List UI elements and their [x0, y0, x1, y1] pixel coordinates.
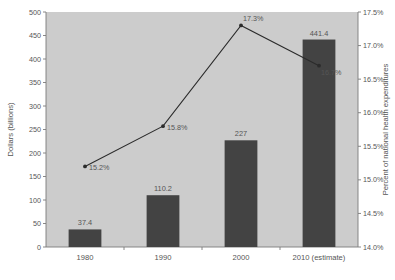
x-axis-category-label: 2000 — [233, 253, 250, 262]
right-tick-label: 17.0% — [363, 41, 384, 50]
left-tick-label: 300 — [29, 102, 41, 111]
left-tick-label: 50 — [33, 219, 41, 228]
chart-container: 050100150200250300350400450500 14.0%14.5… — [0, 0, 395, 280]
line-data-point — [239, 24, 243, 28]
bar-value-label: 441.4 — [310, 29, 329, 38]
line-value-label: 16.7% — [321, 68, 342, 77]
right-tick-label: 14.5% — [363, 209, 384, 218]
right-tick-label: 17.5% — [363, 8, 384, 17]
line-data-point — [83, 165, 87, 169]
left-tick-label: 500 — [29, 8, 41, 17]
left-axis-title: Dollars (billions) — [6, 102, 15, 156]
left-tick-label: 150 — [29, 172, 41, 181]
x-axis-category-label: 1980 — [77, 253, 94, 262]
bar-value-label: 37.4 — [78, 218, 92, 227]
bar-value-label: 110.2 — [154, 184, 172, 193]
left-tick-label: 450 — [29, 31, 41, 40]
left-tick-label: 400 — [29, 55, 41, 64]
left-tick-label: 200 — [29, 149, 41, 158]
line-value-label: 15.2% — [89, 163, 110, 172]
left-tick-label: 350 — [29, 78, 41, 87]
line-data-point — [161, 124, 165, 128]
bar — [69, 229, 102, 247]
x-axis-category-label: 1990 — [155, 253, 172, 262]
left-axis-ticks: 050100150200250300350400450500 — [29, 8, 46, 252]
dual-axis-chart: 050100150200250300350400450500 14.0%14.5… — [0, 0, 395, 280]
left-tick-label: 100 — [29, 196, 41, 205]
line-value-label: 15.8% — [167, 123, 188, 132]
bar — [225, 140, 258, 247]
line-value-label: 17.3% — [243, 14, 264, 23]
bar-value-label: 227 — [235, 129, 247, 138]
x-axis-category-labels: 1980199020002010 (estimate) — [77, 253, 346, 262]
x-axis-category-label: 2010 (estimate) — [293, 253, 346, 262]
left-tick-label: 250 — [29, 125, 41, 134]
right-tick-label: 14.0% — [363, 243, 384, 252]
right-axis-title: Percent of national health expenditures — [381, 63, 390, 195]
bar — [147, 195, 180, 247]
left-tick-label: 0 — [37, 243, 41, 252]
